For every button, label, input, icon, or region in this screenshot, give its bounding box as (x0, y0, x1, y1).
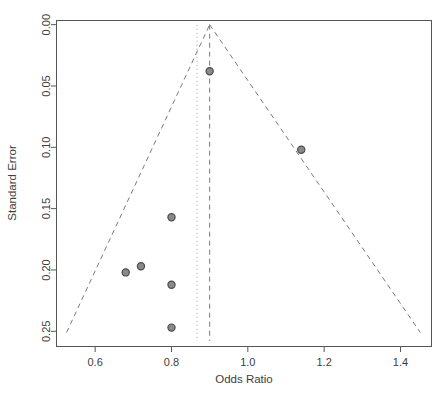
funnel-plot-figure: 0.000.050.100.150.200.25 0.60.81.01.21.4… (0, 0, 444, 400)
y-tick-label: 0.05 (40, 75, 52, 96)
funnel-plot-canvas: 0.000.050.100.150.200.25 0.60.81.01.21.4… (0, 0, 444, 400)
study-data-point (168, 281, 175, 288)
y-tick-label: 0.15 (40, 198, 52, 219)
x-tick-label: 1.0 (240, 356, 255, 368)
y-tick-label: 0.25 (40, 321, 52, 342)
y-tick-label: 0.00 (40, 14, 52, 35)
study-data-point (298, 146, 305, 153)
x-tick-label: 0.6 (88, 356, 103, 368)
study-data-point (122, 269, 129, 276)
x-tick-label: 1.4 (393, 356, 408, 368)
y-axis-title: Standard Error (6, 145, 18, 221)
y-tick-label: 0.20 (40, 259, 52, 280)
y-tick-label: 0.10 (40, 137, 52, 158)
x-axis-title: Odds Ratio (215, 373, 273, 385)
x-tick-label: 1.2 (316, 356, 331, 368)
study-data-point (206, 68, 213, 75)
x-tick-label: 0.8 (164, 356, 179, 368)
study-data-point (168, 324, 175, 331)
study-data-point (137, 263, 144, 270)
study-data-point (168, 214, 175, 221)
plot-background (0, 0, 444, 400)
